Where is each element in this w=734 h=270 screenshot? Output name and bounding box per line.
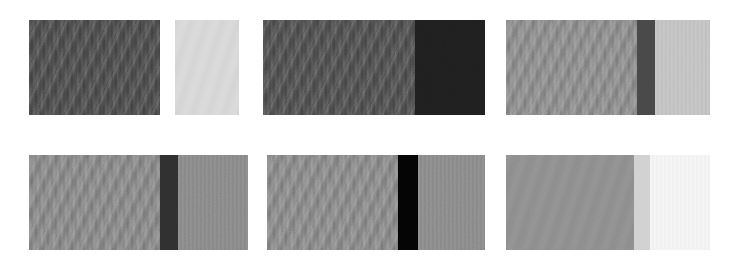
grain-overlay (178, 155, 248, 250)
grain-overlay (175, 20, 239, 115)
panel-6-near-white-sample (650, 155, 710, 250)
grain-overlay (418, 155, 485, 250)
panel-1-dark-textured-sample (29, 20, 160, 115)
grain-overlay (637, 20, 655, 115)
grain-overlay (160, 155, 178, 250)
grain-overlay (506, 155, 634, 250)
texture-panel-row-1-col-2 (263, 20, 485, 115)
panel-2-dark-textured-sample (263, 20, 415, 115)
panel-6-light-gray-transition (634, 155, 650, 250)
grain-overlay (263, 20, 415, 115)
grain-overlay (267, 155, 398, 250)
panel-5-medium-gray-textured-sample (267, 155, 398, 250)
grain-overlay (650, 155, 710, 250)
texture-panel-row-1-col-1 (29, 20, 239, 115)
texture-panel-row-2-col-2 (267, 155, 485, 250)
grain-overlay (29, 20, 160, 115)
panel-1-inter-sample-gap (160, 20, 175, 115)
panel-6-medium-gray-smooth-sample (506, 155, 634, 250)
grain-overlay (655, 20, 710, 115)
panel-4-dark-band (160, 155, 178, 250)
texture-panel-row-2-col-1 (29, 155, 248, 250)
texture-panel-row-2-col-3 (506, 155, 710, 250)
texture-panel-row-1-col-3 (506, 20, 710, 115)
panel-4-medium-gray-textured-sample (29, 155, 160, 250)
panel-2-near-black-sample (415, 20, 485, 115)
panel-3-light-gray-sample (655, 20, 710, 115)
grain-overlay (506, 20, 637, 115)
panel-5-medium-gray-striated-sample (418, 155, 485, 250)
panel-3-dark-band (637, 20, 655, 115)
panel-1-light-textured-sample (175, 20, 239, 115)
panel-5-black-band (398, 155, 418, 250)
panel-3-medium-gray-textured-sample (506, 20, 637, 115)
panel-4-medium-gray-striated-sample (178, 155, 248, 250)
figure-root (0, 0, 734, 270)
grain-overlay (29, 155, 160, 250)
grain-overlay (415, 20, 485, 115)
